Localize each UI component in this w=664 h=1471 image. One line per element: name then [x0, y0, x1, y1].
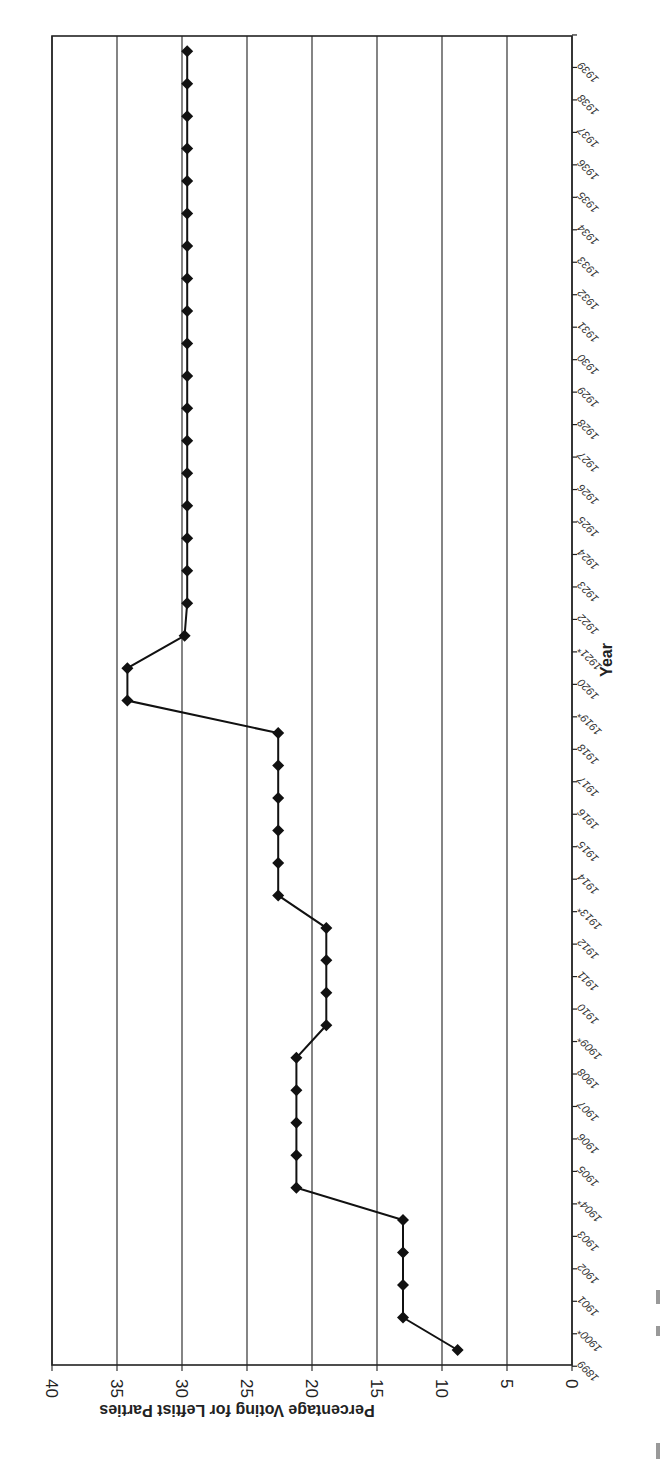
diamond-marker	[181, 78, 193, 90]
diamond-marker	[181, 532, 193, 544]
y-tick-label: 20	[302, 1379, 321, 1398]
diamond-marker	[181, 272, 193, 284]
x-tick-label: 1927	[574, 449, 600, 475]
x-tick-label: 1925	[574, 514, 600, 540]
y-axis-title: Percentage Voting for Leftist Parties	[99, 1402, 374, 1419]
y-tick-label: 5	[497, 1379, 516, 1388]
x-tick-label: 1929	[575, 384, 601, 410]
x-tick-label: 1937	[574, 124, 600, 150]
diamond-marker	[181, 110, 193, 122]
x-tick-label: 1918	[574, 741, 600, 767]
diamond-marker	[272, 727, 284, 739]
diamond-marker	[320, 987, 332, 999]
x-tick-label: 1938	[574, 92, 600, 118]
data-markers	[121, 45, 463, 1356]
x-tick-label: 1932	[575, 287, 601, 313]
x-tick-label: 1905	[574, 1163, 600, 1189]
diamond-marker	[181, 370, 193, 382]
diamond-marker	[290, 1182, 302, 1194]
diamond-marker	[272, 889, 284, 901]
x-tick-label: 1920	[574, 676, 600, 702]
diamond-marker	[181, 435, 193, 447]
x-tick-label: 1916	[574, 806, 600, 832]
diamond-marker	[181, 305, 193, 317]
x-tick-label: 1924	[575, 547, 601, 573]
x-tick-label: 1902	[575, 1261, 601, 1287]
x-tick-label: 1900*	[574, 1326, 603, 1355]
diamond-marker	[121, 662, 133, 674]
x-tick-label: 1913*	[574, 904, 603, 933]
x-tick-label: 1923	[574, 579, 600, 605]
diamond-marker	[397, 1247, 409, 1259]
y-tick-label: 10	[432, 1379, 451, 1398]
diamond-marker	[181, 240, 193, 252]
x-axis-title: Year	[598, 643, 615, 677]
x-tick-label: 1901	[575, 1294, 601, 1320]
diamond-marker	[272, 857, 284, 869]
diamond-marker	[181, 175, 193, 187]
x-tick-label: 1917	[574, 774, 600, 800]
x-tick-label: 1915	[574, 838, 600, 864]
x-tick-label: 1910	[574, 1001, 600, 1027]
diamond-marker	[397, 1312, 409, 1324]
diamond-marker	[397, 1279, 409, 1291]
x-tick-label: 1904*	[574, 1196, 603, 1225]
x-tick-label: 1934	[575, 222, 601, 248]
diamond-marker	[121, 695, 133, 707]
x-tick-label: 1935	[574, 189, 600, 215]
diamond-marker	[320, 954, 332, 966]
x-tick-label: 1930	[574, 351, 600, 377]
x-tick-label: 1928	[574, 416, 600, 442]
x-tick-label: 1903	[574, 1228, 600, 1254]
x-axis-tick-labels: 18991900*1901190219031904*19051906190719…	[574, 60, 603, 1385]
x-tick-label: 1907	[574, 1098, 600, 1124]
x-tick-label: 1919*	[574, 709, 603, 738]
y-tick-label: 30	[172, 1379, 191, 1398]
x-tick-label: 1926	[574, 481, 600, 507]
x-tick-label: 1911	[575, 969, 600, 994]
diamond-marker	[181, 208, 193, 220]
x-tick-label: 1908	[574, 1066, 600, 1092]
diamond-marker	[290, 1149, 302, 1161]
x-tick-label: 1933	[574, 254, 600, 280]
x-tick-label: 1912	[575, 936, 601, 962]
diamond-marker	[181, 500, 193, 512]
diamond-marker	[181, 143, 193, 155]
line-chart: 0510152025303540 18991900*19011902190319…	[0, 0, 664, 1471]
y-tick-label: 40	[42, 1379, 61, 1398]
cropped-caption-fragments	[656, 1290, 660, 1459]
x-tick-label: 1936	[574, 157, 600, 183]
x-tick-label: 1931	[575, 320, 601, 346]
diamond-marker	[320, 922, 332, 934]
x-tick-label: 1906	[574, 1131, 600, 1157]
y-tick-label: 25	[237, 1379, 256, 1398]
diamond-marker	[181, 565, 193, 577]
diamond-marker	[290, 1117, 302, 1129]
diamond-marker	[272, 824, 284, 836]
x-tick-label: 1909*	[574, 1033, 603, 1062]
diamond-marker	[181, 467, 193, 479]
diamond-marker	[181, 597, 193, 609]
diamond-marker	[290, 1084, 302, 1096]
diamond-marker	[179, 630, 191, 642]
diamond-marker	[272, 760, 284, 772]
diamond-marker	[181, 337, 193, 349]
y-axis-tick-labels: 0510152025303540	[42, 1379, 581, 1398]
diamond-marker	[452, 1344, 464, 1356]
diamond-marker	[181, 45, 193, 57]
x-tick-label: 1914	[575, 872, 601, 898]
diamond-marker	[397, 1214, 409, 1226]
x-tick-label: 1922	[575, 612, 601, 638]
diamond-marker	[272, 792, 284, 804]
x-tick-label: 1939	[575, 60, 601, 86]
y-tick-label: 0	[562, 1379, 581, 1388]
y-tick-label: 15	[367, 1379, 386, 1398]
diamond-marker	[181, 402, 193, 414]
y-tick-label: 35	[107, 1379, 126, 1398]
